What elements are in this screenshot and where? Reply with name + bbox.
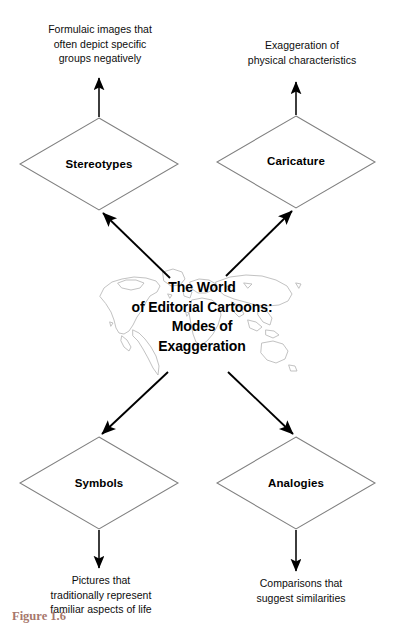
- connector-center-to-stereotypes: [103, 213, 170, 278]
- connector-center-to-caricature: [226, 211, 292, 276]
- editorial-cartoons-diagram: Formulaic images that often depict speci…: [0, 0, 394, 623]
- figure-caption: Figure 1.6: [12, 609, 66, 623]
- node-label-symbols: Symbols: [22, 477, 176, 489]
- description-caricature: Exaggeration of physical characteristics: [214, 38, 390, 67]
- node-label-analogies: Analogies: [218, 477, 374, 489]
- description-stereotypes: Formulaic images that often depict speci…: [8, 22, 192, 66]
- description-analogies: Comparisons that suggest similarities: [212, 576, 390, 605]
- node-label-caricature: Caricature: [218, 155, 374, 167]
- center-title: The World of Editorial Cartoons: Modes o…: [97, 278, 307, 356]
- connector-center-to-symbols: [102, 372, 168, 434]
- connector-center-to-analogies: [228, 372, 293, 434]
- node-label-stereotypes: Stereotypes: [22, 158, 176, 170]
